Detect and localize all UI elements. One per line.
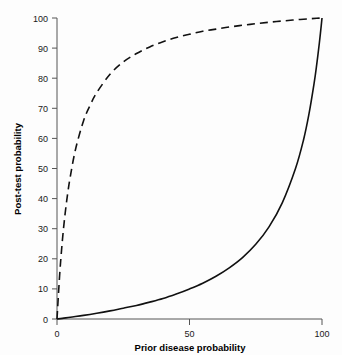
x-axis-tick-labels: 0 50 100 xyxy=(54,329,329,339)
y-axis-title: Post-test probability xyxy=(12,122,23,215)
y-tick-label: 90 xyxy=(38,44,48,54)
y-axis: 100 90 80 70 60 50 40 30 20 10 0 Post-te… xyxy=(12,14,57,325)
negative-test-curve xyxy=(57,18,322,319)
x-axis: 0 50 100 Prior disease probability xyxy=(54,319,329,353)
y-tick-label: 50 xyxy=(38,164,48,174)
y-tick-label: 20 xyxy=(38,254,48,264)
x-axis-title: Prior disease probability xyxy=(135,342,247,353)
positive-test-curve xyxy=(57,18,322,319)
post-test-probability-chart: 100 90 80 70 60 50 40 30 20 10 0 Post-te… xyxy=(0,0,342,355)
y-tick-label: 30 xyxy=(38,224,48,234)
y-axis-ticks xyxy=(52,18,57,319)
y-tick-label: 100 xyxy=(33,14,48,24)
y-axis-tick-labels: 100 90 80 70 60 50 40 30 20 10 0 xyxy=(33,14,48,325)
x-axis-ticks xyxy=(57,319,322,325)
x-tick-label: 0 xyxy=(54,329,59,339)
x-tick-label: 50 xyxy=(184,329,194,339)
y-tick-label: 60 xyxy=(38,134,48,144)
y-tick-label: 40 xyxy=(38,194,48,204)
chart-figure: 100 90 80 70 60 50 40 30 20 10 0 Post-te… xyxy=(0,0,342,355)
y-tick-label: 10 xyxy=(38,284,48,294)
x-tick-label: 100 xyxy=(314,329,329,339)
y-tick-label: 70 xyxy=(38,104,48,114)
y-tick-label: 0 xyxy=(43,315,48,325)
y-tick-label: 80 xyxy=(38,74,48,84)
